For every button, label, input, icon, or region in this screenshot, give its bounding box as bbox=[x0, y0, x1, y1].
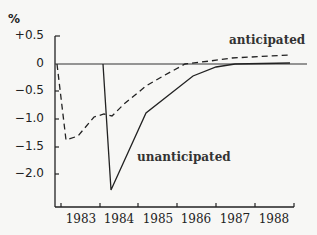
x-tick-label: 1988 bbox=[255, 212, 293, 226]
x-tick-label: 1983 bbox=[62, 212, 100, 226]
x-tick-label: 1987 bbox=[216, 212, 254, 226]
x-tick-label: 1984 bbox=[100, 212, 138, 226]
series-unanticipated bbox=[103, 63, 290, 190]
anticipated-label: anticipated bbox=[229, 33, 305, 47]
unanticipated-label: unanticipated bbox=[137, 150, 231, 164]
y-tick-label: +0.5 bbox=[4, 28, 44, 42]
y-tick-label: −1.0 bbox=[4, 111, 44, 125]
y-tick-label: −2.0 bbox=[4, 166, 44, 180]
y-tick-label: 0 bbox=[4, 56, 44, 70]
y-unit-label: % bbox=[8, 12, 20, 26]
y-ticks bbox=[55, 36, 60, 174]
x-tick-label: 1985 bbox=[139, 212, 177, 226]
x-tick-label: 1986 bbox=[177, 212, 215, 226]
y-tick-label: −0.5 bbox=[4, 83, 44, 97]
y-tick-label: −1.5 bbox=[4, 139, 44, 153]
series-anticipated bbox=[57, 55, 290, 140]
